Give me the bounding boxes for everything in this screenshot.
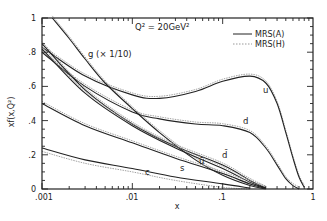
y-axis-label: xf(x,Q²) [7,97,16,128]
curve-label-s: s [180,163,185,173]
curve-label-u: u [263,85,268,95]
curve-g-mrs-h [52,16,265,187]
legend-label-mrs-a: MRS(A) [255,30,284,39]
ytick-label: .4 [28,117,36,126]
curve-label-c: c [145,167,150,177]
pdf-chart: 0 .2 .4 .6 .8 1 .001 .01 .1 1 x xf(x,Q²)… [0,0,327,221]
curve-label-dbar: d̄ [222,149,228,160]
curve-label-g: g (× 1/10) [88,49,132,59]
ytick-label: .2 [28,151,36,160]
xtick-label: .001 [35,193,53,202]
legend-label-mrs-h: MRS(H) [255,40,285,49]
q2-annotation: Q² = 20GeV² [135,22,189,32]
x-axis-label: x [175,202,180,211]
ytick-label: .8 [28,48,36,57]
curve-d-mrs-h [42,50,299,187]
curve-u-mrs-h [42,45,304,185]
curve-ubar-mrs-h [42,47,266,186]
curve-label-ubar: ū [199,156,204,166]
ytick-label: .6 [28,82,36,91]
curve-d-mrs-a [42,52,299,189]
curve-dbar-mrs-h [42,42,266,187]
curve-u-mrs-a [42,47,304,187]
xtick-label: .01 [126,193,139,202]
xtick-label: 1 [310,193,315,202]
xtick-label: .1 [218,193,226,202]
ytick-label: 1 [31,14,36,23]
curve-label-d: d [243,116,248,126]
